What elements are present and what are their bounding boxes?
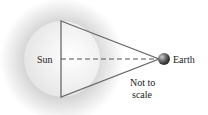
not-to-scale-line1: Not to <box>130 77 155 88</box>
sun-label: Sun <box>37 54 53 65</box>
earth-icon <box>158 53 170 65</box>
earth-label: Earth <box>173 54 195 65</box>
not-to-scale-line2: scale <box>132 89 152 100</box>
